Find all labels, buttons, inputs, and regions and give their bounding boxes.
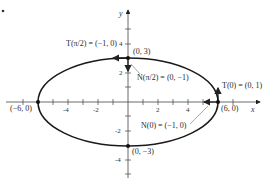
label-point-bottom: (0, −3) [132,147,154,156]
y-tick-neg2: -2 [115,127,121,135]
label-T-pi2: T(π/2) = (−1, 0) [66,39,117,48]
x-tick-neg2: -2 [93,106,99,114]
y-axis: y 4 2 -2 -4 [115,9,131,178]
point-bottom [126,144,130,148]
y-axis-label: y [118,9,123,18]
label-N0: N(0) = (−1, 0) [141,121,187,130]
y-tick-4: 4 [119,40,123,48]
y-tick-neg4: -4 [115,156,121,164]
label-point-left: (−6, 0) [10,104,32,113]
x-tick-2: 2 [156,106,160,114]
ellipse-diagram: x -4 -2 2 4 y 4 2 -2 -4 (0, 3) (0, −3) (… [0,0,270,183]
leader-line-N0 [190,106,208,124]
label-T0: T(0) = (0, 1) [222,81,262,90]
x-tick-neg4: -4 [63,106,69,114]
label-N-pi2: N(π/2) = (0, −1) [137,73,189,82]
x-tick-4: 4 [186,106,190,114]
y-tick-2: 2 [119,69,123,77]
x-axis-label: x [250,105,255,114]
point-left [36,100,40,104]
bullet-marker [2,10,5,13]
label-point-right: (6, 0) [221,104,239,113]
label-point-top: (0, 3) [133,47,151,56]
